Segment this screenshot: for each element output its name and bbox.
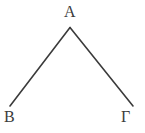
vertex-label-bottom-right: Γ xyxy=(121,109,130,125)
vertex-label-apex: Α xyxy=(64,4,76,20)
vertex-label-bottom-left: Β xyxy=(4,109,15,125)
segment-a-gamma xyxy=(70,28,133,107)
angle-diagram-figure: Α Β Γ xyxy=(0,0,145,133)
segment-a-b xyxy=(10,28,70,107)
